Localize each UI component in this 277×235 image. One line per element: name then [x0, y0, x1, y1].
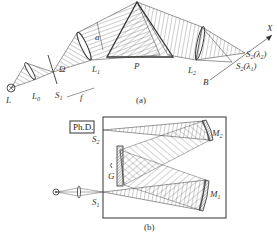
label-focal: f [80, 92, 84, 102]
label-lens2: L2 [187, 65, 196, 76]
spectrometer-diagram: L L0 S1 Ω L1 a f P L2 X B S2(λ2) S2(λ1) … [0, 0, 277, 235]
caption-a: (a) [136, 95, 146, 105]
label-source: L [5, 95, 11, 105]
label-slit2: S2 [92, 134, 100, 145]
label-axis-b: B [203, 77, 209, 87]
label-prism: P [133, 61, 140, 71]
label-grating: G [108, 171, 115, 181]
label-mirror2: M2 [211, 128, 223, 139]
panel-a: L L0 S1 Ω L1 a f P L2 X B S2(λ2) S2(λ1) … [5, 2, 273, 105]
panel-b: Ph.D. G M2 M1 S2 S1 (b) [53, 117, 226, 232]
label-slit1: S1 [55, 90, 63, 101]
label-axis-x: X [266, 23, 273, 33]
label-image-lambda1: S2(λ1) [236, 61, 256, 72]
grating-icon [117, 146, 123, 186]
beam-to-image-lambda2 [196, 27, 245, 60]
label-lens1: L1 [91, 64, 100, 75]
label-lens0: L0 [31, 91, 40, 102]
label-aperture: a [95, 32, 100, 42]
label-slit1-b: S1 [92, 197, 100, 208]
axis-x-arrowhead [266, 35, 272, 41]
label-mirror1: M1 [209, 189, 221, 200]
label-solid-angle: Ω [59, 64, 66, 74]
caption-b: (b) [144, 222, 155, 232]
rotation-arrow-icon [111, 163, 113, 168]
input-lens-icon [78, 186, 81, 198]
label-detector: Ph.D. [73, 122, 94, 132]
label-image-lambda2: S2(λ2) [246, 49, 266, 60]
